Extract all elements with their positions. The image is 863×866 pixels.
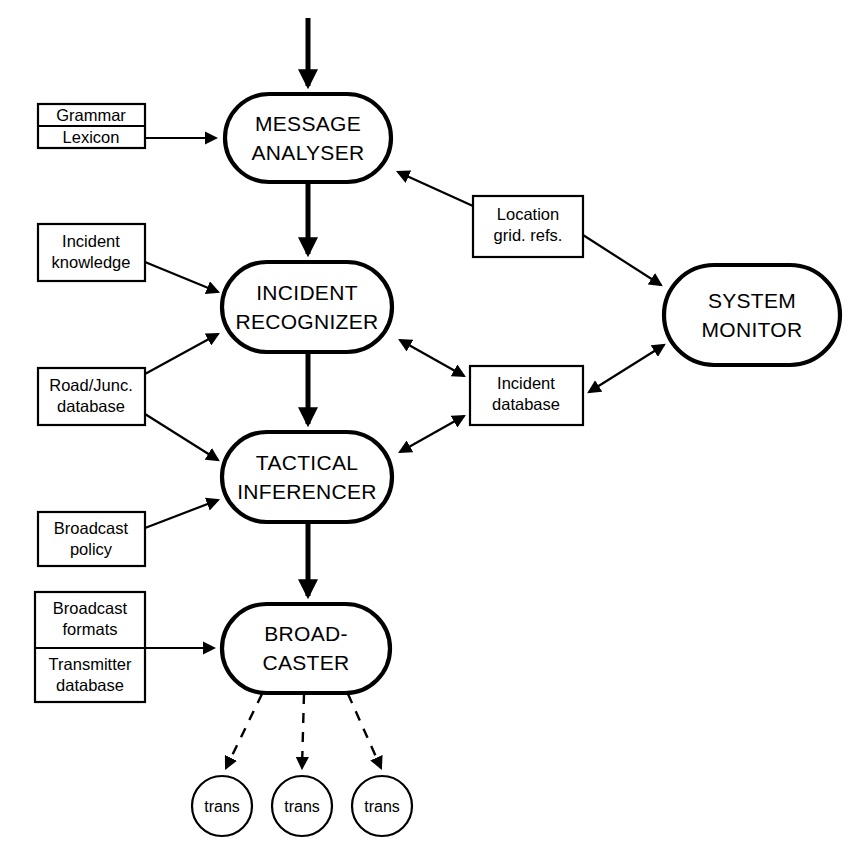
process-incident-recognizer-shape (222, 262, 392, 352)
process-tactical-inferencer[interactable]: TACTICAL INFERENCER (222, 432, 392, 522)
process-message-analyser-line1: MESSAGE (255, 112, 361, 135)
process-broadcaster-line2: CASTER (263, 651, 350, 674)
store-location-grid-refs[interactable]: Location grid. refs. (473, 196, 583, 257)
process-broadcaster[interactable]: BROAD- CASTER (222, 604, 390, 693)
store-incident-knowledge-line1: Incident (62, 232, 120, 250)
store-broadcast-policy-line2: policy (70, 540, 113, 558)
store-grammar-label: Grammar (56, 106, 126, 124)
process-system-monitor-line1: SYSTEM (708, 289, 796, 312)
store-incident-database-line1: Incident (497, 374, 555, 392)
store-broadcast-formats-line1: Broadcast (53, 599, 128, 617)
process-broadcaster-shape (222, 604, 390, 693)
transmitter-1[interactable]: trans (192, 776, 252, 836)
store-broadcast-policy[interactable]: Broadcast policy (38, 512, 145, 566)
process-incident-recognizer[interactable]: INCIDENT RECOGNIZER (222, 262, 392, 352)
process-system-monitor-line2: MONITOR (702, 318, 803, 341)
process-incident-recognizer-line1: INCIDENT (256, 281, 358, 304)
flow-broadcast-policy-to-tactical-inferencer (145, 500, 218, 528)
flow-broadcaster-to-transmitter-2 (302, 694, 304, 768)
process-incident-recognizer-line2: RECOGNIZER (235, 310, 378, 333)
flow-broadcaster-to-transmitter-3 (348, 694, 381, 768)
process-tactical-inferencer-line2: INFERENCER (237, 480, 377, 503)
store-broadcast-formats-line2: formats (62, 620, 117, 638)
process-tactical-inferencer-shape (222, 432, 392, 522)
store-transmitter-database-line2: database (56, 676, 124, 694)
store-location-grid-refs-line1: Location (497, 205, 559, 223)
process-message-analyser[interactable]: MESSAGE ANALYSER (225, 94, 391, 182)
process-broadcaster-line1: BROAD- (264, 622, 347, 645)
store-broadcast-policy-line1: Broadcast (54, 519, 129, 537)
flow-location-grid-refs-to-system-monitor (583, 235, 661, 285)
transmitter-1-label: trans (204, 798, 240, 815)
flow-incident-recognizer-to-incident-database (400, 340, 464, 376)
transmitter-3-label: trans (364, 798, 400, 815)
store-incident-database-line2: database (492, 395, 560, 413)
transmitter-2[interactable]: trans (272, 776, 332, 836)
process-system-monitor-shape (664, 265, 840, 365)
process-message-analyser-line2: ANALYSER (252, 141, 365, 164)
flow-incident-knowledge-to-incident-recognizer (145, 262, 218, 292)
flow-incident-database-to-system-monitor (589, 345, 664, 392)
transmitter-3[interactable]: trans (352, 776, 412, 836)
dataflow-diagram-canvas: MESSAGE ANALYSER INCIDENT RECOGNIZER TAC… (0, 0, 863, 866)
store-broadcast-transmitter-store[interactable]: Broadcast formats Transmitter database (35, 592, 145, 702)
flow-location-grid-refs-to-message-analyser (398, 172, 473, 206)
store-incident-knowledge[interactable]: Incident knowledge (38, 224, 145, 281)
store-transmitter-database-line1: Transmitter (49, 655, 132, 673)
flow-broadcaster-to-transmitter-1 (226, 694, 262, 768)
store-lexicon-label: Lexicon (63, 128, 120, 146)
store-road-junction-database-line1: Road/Junc. (49, 376, 132, 394)
store-road-junction-database[interactable]: Road/Junc. database (38, 368, 145, 425)
store-incident-database[interactable]: Incident database (470, 366, 583, 425)
flow-road-junction-to-incident-recognizer (145, 334, 218, 374)
transmitter-2-label: trans (284, 798, 320, 815)
diagram-root: MESSAGE ANALYSER INCIDENT RECOGNIZER TAC… (0, 0, 863, 866)
process-system-monitor[interactable]: SYSTEM MONITOR (664, 265, 840, 365)
store-road-junction-database-line2: database (57, 397, 125, 415)
flow-road-junction-to-tactical-inferencer (145, 414, 218, 460)
store-location-grid-refs-line2: grid. refs. (494, 226, 563, 244)
process-tactical-inferencer-line1: TACTICAL (256, 451, 358, 474)
store-grammar-lexicon[interactable]: Grammar Lexicon (38, 104, 145, 148)
process-message-analyser-shape (225, 94, 391, 182)
store-incident-knowledge-line2: knowledge (52, 253, 131, 271)
flow-tactical-inferencer-to-incident-database (400, 416, 464, 452)
